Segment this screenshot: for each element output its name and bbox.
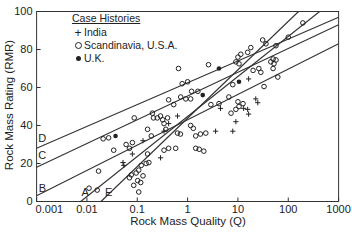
data-point-scandinavia-u-s-a: [175, 131, 180, 136]
data-point-scandinavia-u-s-a: [136, 168, 141, 173]
data-point-scandinavia-u-s-a: [262, 84, 267, 89]
data-point-scandinavia-u-s-a: [248, 45, 253, 50]
data-point-scandinavia-u-s-a: [132, 116, 137, 121]
data-point-scandinavia-u-s-a: [166, 146, 171, 151]
x-axis-title: Rock Mass Quality (Q): [130, 215, 246, 227]
data-point-scandinavia-u-s-a: [238, 52, 243, 57]
data-point-scandinavia-u-s-a: [259, 70, 264, 75]
data-point-scandinavia-u-s-a: [165, 116, 170, 121]
data-point-scandinavia-u-s-a: [130, 140, 135, 145]
legend-item-label: Scandinavia, U.S.A.: [84, 39, 177, 52]
legend: Case Histories India Scandinavia, U.S.A.…: [72, 12, 177, 65]
data-point-scandinavia-u-s-a: [276, 75, 281, 80]
x-tick-label: 0.1: [130, 203, 145, 215]
line-label-A: A: [81, 186, 89, 198]
data-point-scandinavia-u-s-a: [131, 183, 136, 188]
filled-circle-marker-icon: [72, 56, 84, 61]
data-point-scandinavia-u-s-a: [111, 148, 116, 153]
open-circle-marker-icon: [72, 42, 84, 49]
data-point-scandinavia-u-s-a: [173, 146, 178, 151]
data-point-scandinavia-u-s-a: [191, 126, 196, 131]
data-point-u-k: [217, 66, 222, 71]
data-point-scandinavia-u-s-a: [124, 142, 129, 147]
legend-item-scandinavia-usa: Scandinavia, U.S.A.: [72, 39, 177, 52]
data-point-scandinavia-u-s-a: [178, 132, 183, 137]
data-point-scandinavia-u-s-a: [162, 148, 167, 153]
data-point-scandinavia-u-s-a: [136, 190, 141, 195]
data-point-scandinavia-u-s-a: [245, 50, 250, 55]
data-point-scandinavia-u-s-a: [188, 123, 193, 128]
x-tick-label: 10: [232, 203, 244, 215]
data-point-scandinavia-u-s-a: [141, 174, 146, 179]
legend-item-uk: U.K.: [72, 52, 177, 65]
data-point-scandinavia-u-s-a: [206, 62, 211, 67]
rmr-q-correlation-figure: ABCDE0.0010.010.11101001000020406080100 …: [0, 0, 352, 233]
data-point-scandinavia-u-s-a: [145, 127, 150, 132]
legend-title: Case Histories: [72, 12, 177, 25]
x-tick-label: 0.001: [36, 203, 64, 215]
data-point-scandinavia-u-s-a: [237, 104, 242, 109]
data-point-scandinavia-u-s-a: [139, 163, 144, 168]
data-point-scandinavia-u-s-a: [145, 152, 150, 157]
data-point-scandinavia-u-s-a: [178, 95, 183, 100]
y-tick-label: 100: [14, 5, 32, 17]
data-point-u-k: [237, 80, 242, 85]
legend-item-india: India: [72, 26, 177, 39]
line-label-D: D: [38, 132, 46, 144]
line-label-B: B: [39, 182, 46, 194]
x-tick-label: 1: [185, 203, 191, 215]
x-tick-label: 100: [279, 203, 297, 215]
y-axis-title: Rock Mass Rating (RMR): [3, 40, 15, 170]
data-point-scandinavia-u-s-a: [229, 111, 234, 116]
line-label-E: E: [105, 186, 112, 198]
y-tick-label: 80: [20, 43, 32, 55]
data-point-scandinavia-u-s-a: [198, 132, 203, 137]
data-point-scandinavia-u-s-a: [188, 97, 193, 102]
data-point-scandinavia-u-s-a: [101, 137, 106, 142]
data-point-scandinavia-u-s-a: [202, 149, 207, 154]
x-tick-label: 0.01: [76, 203, 97, 215]
data-point-scandinavia-u-s-a: [204, 131, 209, 136]
data-point-scandinavia-u-s-a: [176, 66, 181, 71]
data-point-scandinavia-u-s-a: [144, 161, 149, 166]
data-point-scandinavia-u-s-a: [106, 136, 111, 141]
data-point-scandinavia-u-s-a: [236, 55, 241, 60]
data-point-u-k: [113, 134, 118, 139]
y-tick-label: 0: [26, 195, 32, 207]
legend-item-label: India: [84, 26, 107, 39]
data-point-scandinavia-u-s-a: [209, 102, 214, 107]
plus-marker-icon: [72, 27, 84, 39]
x-tick-label: 1000: [326, 203, 350, 215]
y-tick-label: 60: [20, 81, 32, 93]
y-tick-label: 20: [20, 157, 32, 169]
data-point-scandinavia-u-s-a: [166, 98, 171, 103]
data-point-scandinavia-u-s-a: [230, 82, 235, 87]
legend-item-label: U.K.: [84, 52, 104, 65]
data-point-scandinavia-u-s-a: [271, 66, 276, 71]
data-point-scandinavia-u-s-a: [96, 169, 101, 174]
line-label-C: C: [38, 149, 46, 161]
correlation-line-B: [37, 44, 339, 196]
y-tick-label: 40: [20, 119, 32, 131]
data-point-scandinavia-u-s-a: [251, 68, 256, 73]
data-point-scandinavia-u-s-a: [193, 134, 198, 139]
data-point-scandinavia-u-s-a: [189, 89, 194, 94]
data-point-scandinavia-u-s-a: [236, 99, 241, 104]
data-point-u-k: [200, 93, 205, 98]
data-point-scandinavia-u-s-a: [134, 171, 139, 176]
